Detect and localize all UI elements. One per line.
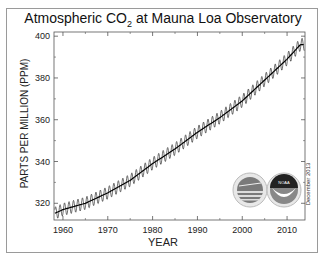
x-axis-label: YEAR bbox=[0, 236, 326, 248]
noaa-logo: NOAA bbox=[267, 173, 301, 207]
x-tick-label: 1980 bbox=[143, 225, 163, 235]
scripps-logo bbox=[233, 173, 267, 207]
y-tick-label: 320 bbox=[35, 198, 50, 208]
x-tick-label: 1970 bbox=[98, 225, 118, 235]
y-tick-label: 380 bbox=[35, 73, 50, 83]
plot-area: 196019701980199020002010320340360380400N… bbox=[0, 0, 326, 262]
date-annotation: December 2013 bbox=[305, 144, 311, 224]
y-axis-label: PARTS PER MILLION (PPM) bbox=[19, 54, 30, 194]
y-tick-label: 340 bbox=[35, 157, 50, 167]
y-tick-label: 360 bbox=[35, 115, 50, 125]
x-tick-label: 1990 bbox=[187, 225, 207, 235]
x-tick-label: 2010 bbox=[277, 225, 297, 235]
x-tick-label: 2000 bbox=[232, 225, 252, 235]
svg-text:NOAA: NOAA bbox=[278, 180, 290, 185]
x-tick-label: 1960 bbox=[53, 225, 73, 235]
y-tick-label: 400 bbox=[35, 31, 50, 41]
